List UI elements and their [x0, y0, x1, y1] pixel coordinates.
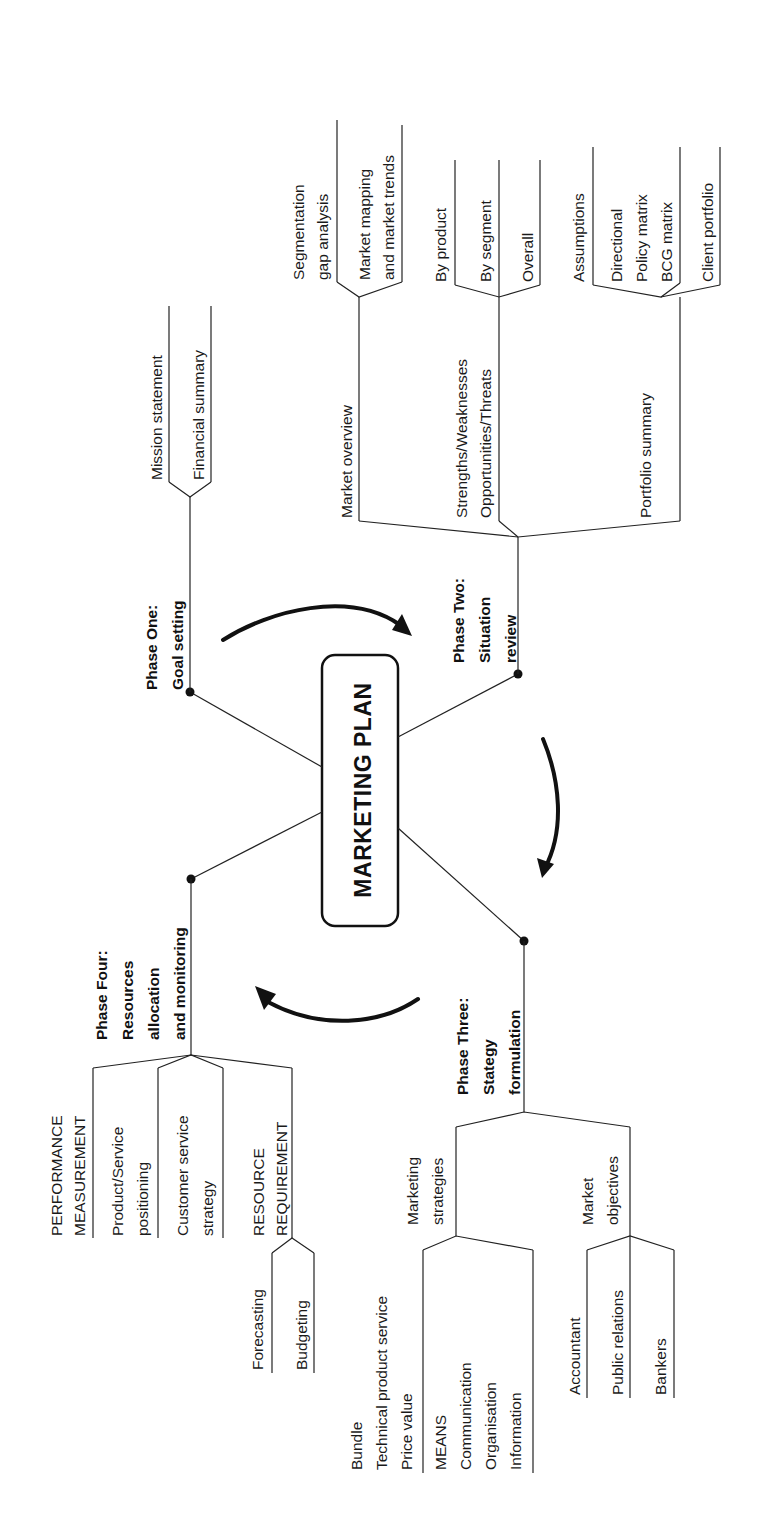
phase2-branch-overall: Overall: [519, 233, 536, 282]
phase2-branch-assumptions: Assumptions: [570, 193, 587, 282]
phase2-branch-segmentation: Segmentation gap analysis: [290, 180, 331, 280]
phase2-label: Phase Two: Situation review: [450, 574, 519, 663]
phase2-branch-client-portfolio: Client portfolio: [699, 183, 716, 282]
phase3-label: Phase Three: Stategy formulation: [454, 993, 523, 1095]
phase2-branch-market-mapping: Market mapping and market trends: [356, 155, 397, 280]
phase1-label: Phase One: Goal setting: [143, 600, 186, 690]
phase2-branch-by-segment: By segment: [477, 199, 494, 282]
marketing-plan-diagram: MARKETING PLAN Phase One: Goal setting M…: [0, 0, 772, 1523]
arrowhead-icon: [392, 614, 412, 636]
phase4-group-customer-service-strategy: Customer service strategy: [174, 1111, 216, 1236]
phase4-branch-forecasting: Forecasting: [249, 1289, 266, 1370]
phase3-branch-bankers: Bankers: [652, 1338, 669, 1395]
phase4: Phase Four: Resources allocation and mon…: [48, 879, 314, 1373]
phase1: Phase One: Goal setting Mission statemen…: [143, 306, 211, 692]
phase3-branch-public-relations: Public relations: [609, 1290, 626, 1395]
phase2-group-portfolio-summary: Portfolio summary: [637, 393, 654, 518]
phase4-group-resource-requirement: RESOURCE REQUIREMENT: [250, 1121, 290, 1236]
phase4-branch-budgeting: Budgeting: [293, 1300, 310, 1370]
phase2-branch-by-product: By product: [432, 207, 449, 282]
phase4-group-product-service-positioning: Product/Service positioning: [109, 1122, 151, 1236]
phase3-group-marketing-strategies: Marketing strategies: [404, 1153, 446, 1225]
phase2-group-market-overview: Market overview: [338, 404, 355, 518]
phase3-group-market-objectives: Market objectives: [579, 1156, 621, 1225]
phase2-branch-directional-policy: Directional Policy matrix BCG matrix: [608, 190, 675, 282]
phase1-branch-mission-statement: Mission statement: [148, 354, 165, 480]
phase4-group-performance-measurement: PERFORMANCE MEASUREMENT: [48, 1111, 88, 1236]
phase3-branch-bundle: Bundle Technical product service Price v…: [348, 1292, 415, 1470]
phase4-label: Phase Four: Resources allocation and mon…: [93, 927, 188, 1040]
phase2-group-swot: Strengths/Weaknesses Opportunities/Threa…: [453, 355, 494, 518]
phase2: Phase Two: Situation review Market overv…: [290, 120, 720, 674]
phase3-branch-accountant: Accountant: [566, 1317, 583, 1395]
arrow-phase3-to-phase4: [268, 999, 418, 1021]
arrow-phase1-to-phase2: [223, 606, 400, 640]
arrow-phase2-to-phase3: [543, 739, 558, 868]
center-title: MARKETING PLAN: [350, 682, 376, 897]
phase1-branch-financial-summary: Financial summary: [190, 350, 207, 480]
phase3-branch-means: MEANS Communication Organisation Informa…: [432, 1358, 524, 1470]
phase3: Phase Three: Stategy formulation Marketi…: [348, 941, 674, 1473]
arrowhead-icon: [537, 858, 554, 878]
center-node: MARKETING PLAN: [322, 655, 398, 926]
